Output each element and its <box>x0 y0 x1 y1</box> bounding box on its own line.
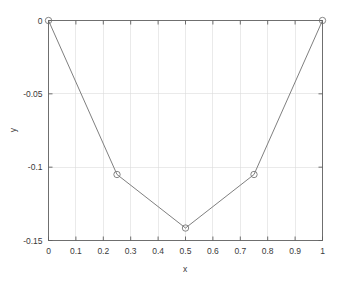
y-tick-label: -0.05 <box>23 89 43 99</box>
x-tick-label: 0.9 <box>289 246 301 256</box>
x-tick-label: 0.7 <box>234 246 246 256</box>
x-tick-label: 0.8 <box>262 246 274 256</box>
figure-background <box>0 0 338 284</box>
x-tick-label: 0.1 <box>70 246 82 256</box>
x-tick-label: 0.2 <box>97 246 109 256</box>
y-tick-label: -0.1 <box>28 162 43 172</box>
x-tick-label: 0.4 <box>152 246 164 256</box>
y-tick-label: 0 <box>38 16 43 26</box>
x-tick-label: 0.6 <box>207 246 219 256</box>
plot-canvas: 00.10.20.30.40.50.60.70.80.91 0-0.05-0.1… <box>0 0 338 284</box>
figure-container: 00.10.20.30.40.50.60.70.80.91 0-0.05-0.1… <box>0 0 338 284</box>
y-tick-label: -0.15 <box>23 236 43 246</box>
x-tick-label: 1 <box>320 246 325 256</box>
x-tick-label: 0.5 <box>180 246 192 256</box>
x-tick-label: 0.3 <box>125 246 137 256</box>
x-tick-label: 0 <box>46 246 51 256</box>
